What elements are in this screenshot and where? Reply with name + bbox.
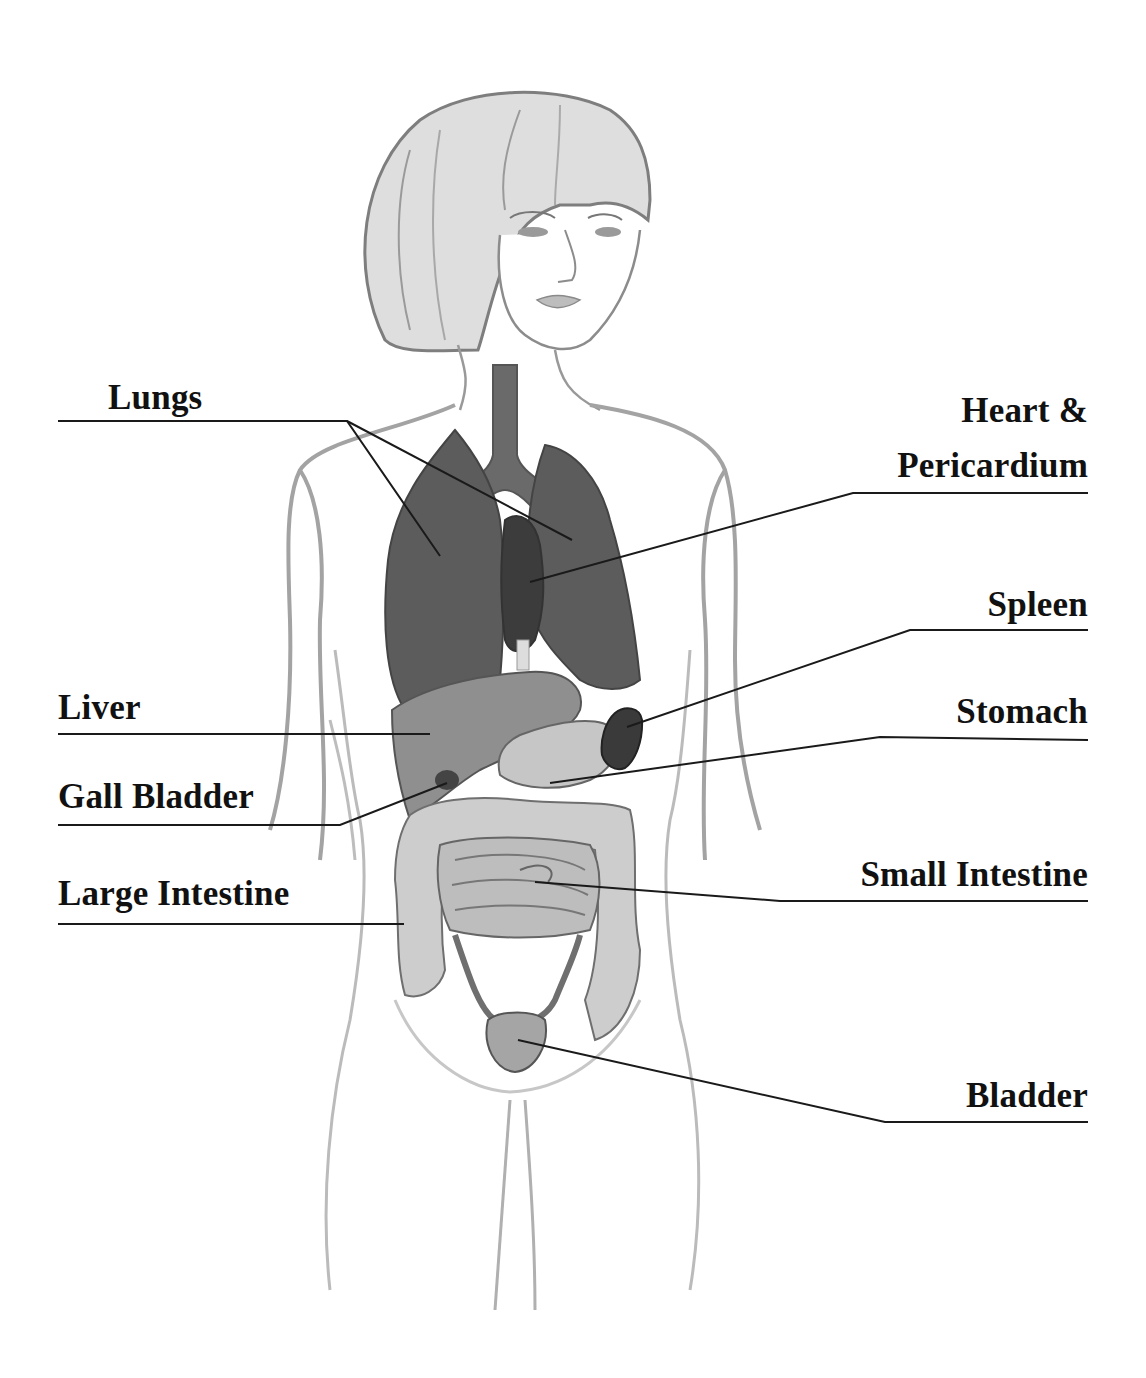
anatomy-diagram: Lungs Liver Gall Bladder Large Intestine… [0,0,1146,1378]
label-liver: Liver [58,690,141,725]
face [499,212,640,349]
label-small-intestine: Small Intestine [860,857,1088,892]
small-intestine [438,838,600,938]
label-stomach: Stomach [956,694,1088,729]
sigmoid [455,935,580,1024]
label-bladder: Bladder [966,1078,1088,1113]
vessel [517,640,529,670]
label-heart-line1: Heart & [961,393,1088,428]
heart [501,516,543,651]
label-spleen: Spleen [988,587,1088,622]
label-gall-bladder: Gall Bladder [58,779,254,814]
label-large-intestine: Large Intestine [58,876,289,911]
leader-line-lungs [58,421,440,556]
spleen [602,708,643,769]
label-lungs: Lungs [108,380,202,415]
bladder [487,1013,546,1073]
neck [458,345,600,410]
body-illustration [0,0,1146,1378]
label-heart-line2: Pericardium [897,448,1088,483]
